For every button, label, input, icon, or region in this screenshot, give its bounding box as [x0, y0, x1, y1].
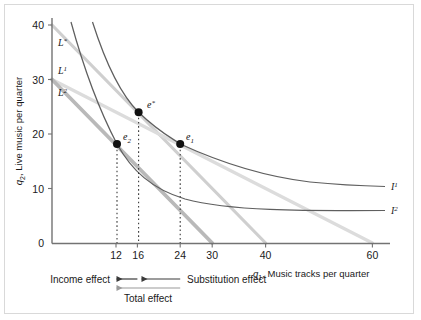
y-tick-label-10: 10 [32, 183, 44, 195]
indifference-label-I2: I2 [390, 205, 398, 217]
svg-text:q2, Live music per quarter: q2, Live music per quarter [13, 77, 26, 185]
total-effect-label: Total effect [124, 293, 172, 304]
x-tick-label-16: 16 [132, 249, 144, 261]
x-tick-label-12: 12 [110, 249, 122, 261]
point-e2 [113, 140, 121, 148]
x-tick-label-60: 60 [367, 249, 379, 261]
y-tick-label-20: 20 [32, 128, 44, 140]
y-tick-label-40: 40 [32, 19, 44, 31]
budget-line-L2 [52, 80, 212, 244]
point-label-e1: e1 [186, 131, 194, 145]
income-effect-label: Income effect [50, 274, 110, 285]
x-tick-label-40: 40 [260, 249, 272, 261]
point-label-e2: e2 [123, 131, 131, 145]
indifference-label-I1: I1 [390, 181, 398, 193]
figure-container: 40 30 20 10 0 12 16 24 30 40 60 q2, Live… [0, 0, 421, 320]
point-e-star [135, 108, 143, 116]
y-axis-title-rest: , Live music per quarter [13, 77, 24, 176]
x-axis-title-rest: , Music tracks per quarter [262, 268, 369, 279]
y-tick-label-30: 30 [32, 74, 44, 86]
y-tick-label-0: 0 [38, 237, 44, 249]
y-axis-title: q2, Live music per quarter [13, 77, 26, 185]
budget-label-L-star: L* [57, 37, 68, 49]
substitution-effect-label: Substitution effect [187, 274, 267, 285]
budget-line-L1 [52, 80, 372, 244]
point-e1 [176, 140, 184, 148]
budget-label-L1: L1 [57, 65, 67, 77]
x-tick-label-30: 30 [206, 249, 218, 261]
indifference-curve-I2 [71, 22, 385, 211]
x-axis-title: q1, Music tracks per quarter [253, 268, 369, 281]
point-label-e-star: e* [147, 99, 155, 111]
indifference-curve-I1 [93, 22, 386, 187]
chart-svg: 40 30 20 10 0 12 16 24 30 40 60 q2, Live… [0, 0, 421, 320]
x-tick-label-24: 24 [174, 249, 186, 261]
